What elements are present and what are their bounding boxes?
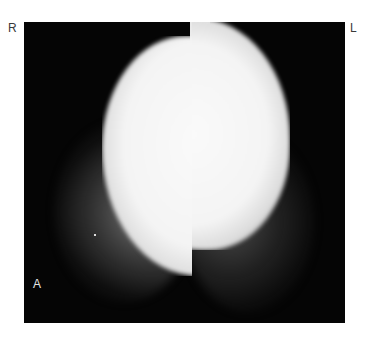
- calcification-speck: [94, 234, 96, 236]
- view-label: A: [33, 278, 41, 290]
- orientation-label-left: L: [350, 22, 357, 34]
- radiograph-image: A: [24, 22, 345, 323]
- orientation-label-right: R: [8, 22, 17, 34]
